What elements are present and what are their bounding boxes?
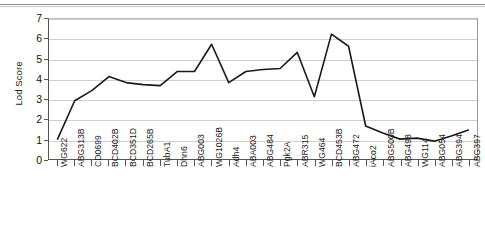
x-axis-tick-mark	[469, 160, 470, 166]
y-axis-tick-label: 2	[2, 114, 42, 124]
x-axis-tick-label: CD0699	[94, 135, 103, 167]
x-axis-tick-mark	[160, 160, 161, 166]
x-axis-tick-mark	[383, 160, 384, 166]
x-axis-tick-label: TubA1	[163, 142, 172, 167]
x-axis-tick-label: ABG397	[473, 134, 482, 167]
x-axis-tick-mark	[315, 160, 316, 166]
x-axis-tick-mark	[418, 160, 419, 166]
top-divider-rule	[0, 4, 485, 5]
x-axis-tick-mark	[211, 160, 212, 166]
y-axis-tick-mark	[44, 79, 48, 80]
x-axis-tick-label: Dhn6	[180, 146, 189, 167]
x-axis-tick-label: ABA003	[249, 135, 258, 167]
x-axis-tick-label: BCD265B	[146, 128, 155, 167]
x-axis-tick-label: ABG054	[438, 134, 447, 167]
x-axis-tick-label: ABG498	[404, 134, 413, 167]
x-axis-tick-label: ABG003	[197, 134, 206, 167]
y-axis-tick-mark	[44, 38, 48, 39]
x-axis-tick-label: BCD351D	[129, 128, 138, 167]
y-axis-tick-label: 5	[2, 54, 42, 64]
x-axis-tick-mark	[246, 160, 247, 166]
x-axis-tick-label: iAco2	[369, 145, 378, 167]
x-axis-tick-mark	[263, 160, 264, 166]
top-divider-rule-secondary	[0, 6, 485, 7]
x-axis-tick-label: BCD453B	[335, 128, 344, 167]
x-axis-tick-label: BCD402B	[111, 128, 120, 167]
x-axis-tick-label: ABG313B	[77, 128, 86, 167]
x-axis-tick-label: ABG484	[266, 134, 275, 167]
y-axis-tick-mark	[44, 18, 48, 19]
x-axis-tick-mark	[74, 160, 75, 166]
x-axis-tick-label: ABR315	[301, 135, 310, 167]
x-axis-tick-mark	[349, 160, 350, 166]
x-axis-tick-label: ABG472	[352, 134, 361, 167]
x-axis-tick-label: Pgk2A	[283, 141, 292, 167]
x-axis-tick-mark	[297, 160, 298, 166]
x-axis-tick-label: WG464	[318, 138, 327, 167]
x-axis-tick-mark	[125, 160, 126, 166]
y-axis-tick-mark	[44, 59, 48, 60]
x-axis-tick-mark	[177, 160, 178, 166]
x-axis-tick-label: WG622	[60, 138, 69, 167]
x-axis-tick-mark	[143, 160, 144, 166]
y-axis-tick-label: 1	[2, 135, 42, 145]
y-axis-tick-label: 7	[2, 13, 42, 23]
x-axis-tick-mark	[332, 160, 333, 166]
x-axis-tick-mark	[229, 160, 230, 166]
x-axis-tick-mark	[435, 160, 436, 166]
y-axis-tick-mark	[44, 99, 48, 100]
y-axis-tick-mark	[44, 140, 48, 141]
x-axis-tick-mark	[91, 160, 92, 166]
y-axis-tick-label: 3	[2, 94, 42, 104]
x-axis-tick-label: WG1026B	[215, 127, 224, 167]
lod-score-chart-figure: Lod Score 01234567WG622ABG313BCD0699BCD4…	[0, 0, 485, 240]
y-axis-tick-label: 6	[2, 33, 42, 43]
y-axis-tick-mark	[44, 160, 48, 161]
x-axis-tick-label: Adh4	[232, 147, 241, 167]
x-axis-tick-mark	[57, 160, 58, 166]
y-axis-tick-label: 0	[2, 155, 42, 165]
y-axis-tick-mark	[44, 119, 48, 120]
x-axis-tick-label: ABG500B	[387, 128, 396, 167]
x-axis-tick-label: ABG394	[455, 134, 464, 167]
x-axis-tick-label: WG114	[421, 138, 430, 167]
x-axis-tick-mark	[401, 160, 402, 166]
y-axis-tick-label: 4	[2, 74, 42, 84]
